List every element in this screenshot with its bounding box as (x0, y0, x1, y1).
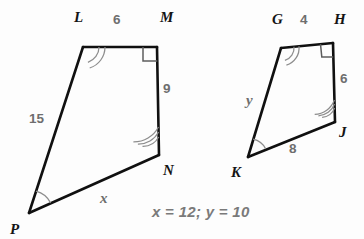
angle-arc-l-1 (88, 47, 99, 62)
vertex-label-p: P (10, 221, 20, 237)
side-label-np: x (99, 190, 108, 206)
quadrilateral-lmnp (29, 47, 159, 213)
vertex-label-j: J (338, 124, 347, 140)
right-angle-mark-h (321, 44, 334, 57)
geometry-diagram: L M N P G H J K 6 9 x 15 4 6 8 y x = 12;… (0, 0, 364, 239)
vertex-label-h: H (333, 11, 347, 27)
side-label-pl: 15 (29, 111, 45, 126)
edge-n-p (29, 155, 159, 213)
side-label-kg: y (244, 92, 253, 108)
angle-arc-l-2 (90, 47, 105, 68)
edge-g-h (281, 43, 333, 48)
vertex-label-m: M (159, 9, 174, 25)
side-label-gh: 4 (300, 12, 308, 27)
angle-arc-g-2 (286, 46, 299, 65)
angle-arc-p-1 (36, 191, 51, 203)
angle-arc-j-3 (315, 100, 335, 114)
vertex-label-l: L (73, 9, 83, 25)
vertex-label-k: K (230, 164, 242, 180)
side-label-mn: 9 (163, 81, 171, 96)
edge-p-l (29, 47, 83, 213)
vertex-label-g: G (272, 11, 283, 27)
angle-arc-k-1 (253, 139, 265, 148)
side-label-lm: 6 (113, 12, 121, 27)
angle-arc-n-1 (143, 137, 159, 146)
quadrilateral-ghjk (248, 43, 335, 157)
edge-k-g (248, 48, 281, 157)
right-angle-mark-m (143, 47, 157, 61)
angle-arc-n-3 (133, 127, 158, 142)
answer-text: x = 12; y = 10 (152, 203, 250, 220)
side-label-jk: 8 (289, 141, 297, 156)
side-label-hj: 6 (340, 71, 348, 86)
vertex-label-n: N (162, 162, 175, 178)
